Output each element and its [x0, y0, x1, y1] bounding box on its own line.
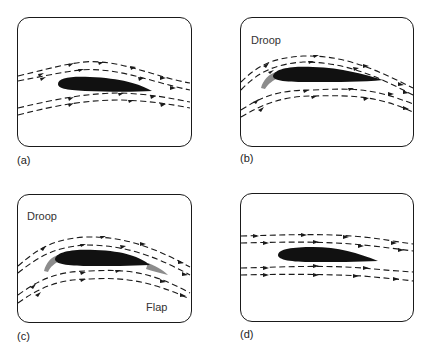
airfoil: [58, 77, 152, 92]
panel-d-flow-diagram: [213, 175, 426, 351]
airfoil: [278, 247, 378, 262]
panel-b-caption: (b): [240, 152, 253, 164]
panel-d-caption: (d): [240, 328, 253, 340]
panel-c-flow-diagram: [0, 175, 213, 351]
panel-d: (d): [213, 175, 426, 351]
panel-c-caption: (c): [17, 330, 30, 342]
panel-c: Droop Flap (c): [0, 175, 213, 351]
panel-a-flow-diagram: [0, 0, 213, 175]
panel-b-flow-diagram: [213, 0, 426, 175]
streamline: [18, 100, 190, 115]
panel-a: (a): [0, 0, 213, 175]
panel-b: Droop (b): [213, 0, 426, 175]
airfoil: [273, 67, 383, 82]
panel-a-caption: (a): [17, 154, 30, 166]
